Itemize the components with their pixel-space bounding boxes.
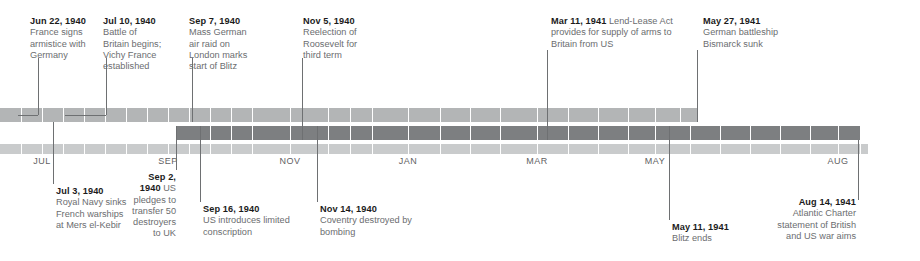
band-segment-divider (290, 144, 291, 154)
event-note-bismarck-sunk: May 27, 1941German battleship Bismarck s… (703, 16, 801, 50)
band-segment-divider (408, 108, 409, 122)
band-segment-divider (210, 144, 211, 154)
event-text-roosevelt-reelected: Reelection of Roosevelt for third term (303, 27, 357, 60)
event-date-battle-of-britain: Jul 10, 1940 (103, 16, 156, 26)
band-axis (0, 144, 868, 154)
event-text-france-armistice: France signs armistice with Germany (30, 27, 86, 60)
band-segment-divider (63, 144, 64, 154)
band-segment-divider (252, 108, 253, 122)
band-segment-divider (105, 144, 106, 154)
axis-tick-mar: MAR (526, 156, 548, 166)
band-segment-divider (720, 144, 721, 154)
band-segment-divider (838, 126, 839, 140)
leader-line-roosevelt-reelected (302, 58, 303, 140)
band-segment-divider (568, 108, 569, 122)
leader-line-blitz-ends (669, 126, 670, 220)
event-text-battle-of-britain: Battle of Britain begins; Vichy France e… (103, 27, 161, 71)
band-segment-divider (470, 126, 471, 140)
band-segment-divider (372, 126, 373, 140)
band-segment-divider (126, 108, 127, 122)
band-segment-divider (21, 144, 22, 154)
band-segment-divider (470, 108, 471, 122)
band-segment-divider (168, 108, 169, 122)
event-note-blitz-begins: Sep 7, 1940Mass German air raid on Londo… (189, 16, 255, 72)
band-segment-divider (568, 126, 569, 140)
band-segment-divider (189, 144, 190, 154)
band-segment-divider (440, 108, 441, 122)
band-segment-divider (537, 126, 538, 140)
event-note-blitz-ends: May 11, 1941Blitz ends (672, 222, 752, 245)
axis-tick-nov: NOV (279, 156, 300, 166)
band-segment-divider (231, 144, 232, 154)
band-segment-divider (252, 144, 253, 154)
event-text-blitz-begins: Mass German air raid on London marks sta… (189, 27, 247, 71)
event-date-france-armistice: Jun 22, 1940 (30, 16, 86, 26)
event-text-limited-conscription: US introduces limited conscription (203, 215, 290, 236)
band-segment-divider (290, 126, 291, 140)
band-segment-divider (350, 126, 351, 140)
event-date-bismarck-sunk: May 27, 1941 (703, 16, 760, 26)
leader-line-destroyers-for-bases (176, 126, 177, 170)
event-note-roosevelt-reelected: Nov 5, 1940Reelection of Roosevelt for t… (303, 16, 369, 61)
leader-line-atlantic-charter (858, 140, 859, 200)
band-segment-divider (84, 144, 85, 154)
event-date-blitz-begins: Sep 7, 1940 (189, 16, 240, 26)
band-segment-divider (598, 144, 599, 154)
band-segment-divider (537, 108, 538, 122)
band-segment-divider (210, 108, 211, 122)
band-segment-divider (328, 144, 329, 154)
band-segment-divider (231, 126, 232, 140)
leader-line-coventry-bombed (317, 126, 318, 202)
band-segment-divider (780, 126, 781, 140)
band-segment-divider (537, 144, 538, 154)
event-text-coventry-bombed: Coventry destroyed by bombing (320, 215, 412, 236)
leader-elbow-battle-of-britain (65, 115, 106, 116)
event-note-coventry-bombed: Nov 14, 1940Coventry destroyed by bombin… (320, 204, 412, 238)
band-segment-divider (63, 108, 64, 122)
band-segment-divider (372, 108, 373, 122)
timeline-diagram: JULSEPNOVJANMARMAYAUGJun 22, 1940France … (0, 0, 920, 261)
band-segment-divider (838, 144, 839, 154)
leader-line-mers-el-kebir (53, 122, 54, 184)
band-segment-divider (690, 144, 691, 154)
band-segment-divider (598, 108, 599, 122)
event-text-atlantic-charter: Atlantic Charter statement of British an… (777, 208, 856, 241)
band-segment-divider (680, 108, 681, 122)
event-note-france-armistice: Jun 22, 1940France signs armistice with … (30, 16, 92, 61)
leader-line-lend-lease (547, 50, 548, 140)
axis-tick-aug: AUG (827, 156, 848, 166)
band-segment-divider (598, 126, 599, 140)
band-segment-divider (628, 108, 629, 122)
band-segment-divider (628, 126, 629, 140)
band-segment-divider (440, 126, 441, 140)
event-note-limited-conscription: Sep 16, 1940US introduces limited conscr… (203, 204, 295, 238)
band-segment-divider (720, 126, 721, 140)
band-segment-divider (252, 126, 253, 140)
band-segment-divider (655, 108, 656, 122)
event-date-atlantic-charter: Aug 14, 1941 (799, 197, 856, 207)
leader-line-france-armistice (38, 58, 39, 115)
event-note-atlantic-charter: Aug 14, 1941Atlantic Charter statement o… (764, 197, 856, 242)
leader-line-bismarck-sunk (697, 50, 698, 122)
event-note-destroyers-for-bases: Sep 2, 1940 US pledges to transfer 50 de… (132, 172, 176, 240)
event-date-mers-el-kebir: Jul 3, 1940 (56, 186, 104, 196)
band-segment-divider (690, 126, 691, 140)
event-text-blitz-ends: Blitz ends (672, 233, 712, 243)
event-date-blitz-ends: May 11, 1941 (672, 222, 729, 232)
band-segment-divider (810, 144, 811, 154)
axis-tick-may: MAY (645, 156, 666, 166)
band-segment-divider (655, 126, 656, 140)
band-segment-divider (655, 144, 656, 154)
band-segment-divider (147, 144, 148, 154)
event-date-roosevelt-reelected: Nov 5, 1940 (303, 16, 355, 26)
event-note-lend-lease: Mar 11, 1941 Lend-Lease Act provides for… (551, 16, 687, 50)
band-segment-divider (750, 126, 751, 140)
event-text-mers-el-kebir: Royal Navy sinks French warships at Mers… (56, 197, 126, 230)
band-segment-divider (440, 144, 441, 154)
event-date-coventry-bombed: Nov 14, 1940 (320, 204, 377, 214)
axis-tick-jul: JUL (33, 156, 51, 166)
band-segment-divider (500, 108, 501, 122)
band-segment-divider (408, 144, 409, 154)
leader-line-limited-conscription (200, 126, 201, 202)
band-middle (176, 126, 860, 140)
